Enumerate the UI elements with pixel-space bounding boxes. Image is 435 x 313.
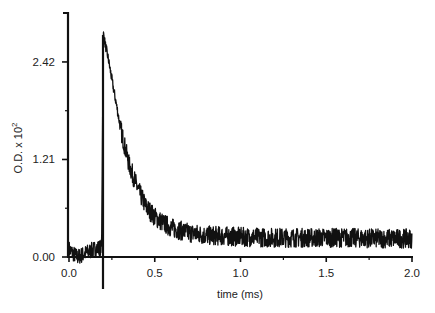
data-trace [69,32,412,263]
x-tick-label: 1.0 [233,267,249,279]
x-axis-label: time (ms) [217,288,263,300]
svg-text:O.D. x 102: O.D. x 102 [10,122,24,173]
x-tick-label: 0.5 [147,267,163,279]
data-line [69,32,412,263]
y-tick-label: 1.21 [33,153,55,165]
y-axis-label-text: O.D. x 10 [12,127,24,173]
chart: 0.00.51.01.52.0 0.001.212.42 time (ms) O… [0,0,435,313]
x-tick-label: 0.0 [61,267,77,279]
x-tick-label: 1.5 [318,267,334,279]
y-axis-label-exponent: 2 [10,122,19,127]
x-axis-ticks: 0.00.51.01.52.0 [61,257,420,279]
y-axis-ticks: 0.001.212.42 [33,56,68,263]
y-tick-label: 2.42 [33,56,55,68]
y-axis-label: O.D. x 102 [10,122,24,173]
y-tick-label: 0.00 [33,251,55,263]
x-tick-label: 2.0 [404,267,420,279]
